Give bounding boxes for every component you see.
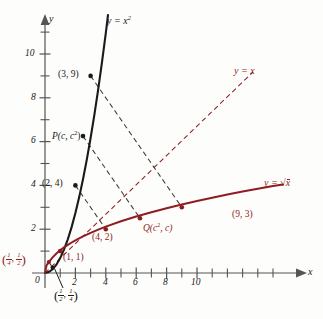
label-point-2-4: (2, 4)	[42, 179, 63, 189]
identity-line	[45, 72, 253, 273]
figure-canvas: y x 0 2 4 6 8 10 2 4 6 8 10 y = x2 y = x…	[0, 0, 323, 319]
label-point-quarter-half: (14, 12)	[2, 252, 26, 266]
parabola-label: y = x2	[107, 15, 131, 26]
close-paren: )	[22, 252, 26, 267]
parabola-label-text: y = x	[107, 15, 128, 26]
y-tick-6: 6	[31, 136, 36, 146]
dot-1-1	[58, 249, 63, 254]
segment-p-to-q	[83, 136, 140, 218]
y-tick-8: 8	[31, 93, 36, 103]
label-point-9-3: (9, 3)	[232, 210, 253, 220]
label-point-q-suffix: , c)	[160, 223, 172, 233]
dot-quarter-half	[47, 260, 51, 264]
dot-half-quarter	[51, 265, 55, 269]
identity-line-label: y = x	[234, 66, 255, 76]
label-point-q-text: Q(c	[143, 223, 157, 233]
label-point-3-9: (3, 9)	[58, 70, 79, 80]
parabola-label-exponent: 2	[128, 14, 131, 21]
origin-label: 0	[35, 276, 40, 286]
x-tick-4: 4	[103, 278, 108, 288]
x-tick-8: 8	[163, 278, 168, 288]
leader-half-quarter	[55, 269, 64, 289]
dot-4-2	[104, 227, 109, 232]
x-axis-arrow	[296, 269, 307, 278]
graph-svg	[0, 0, 323, 319]
dot-3-9	[88, 74, 93, 79]
y-tick-2: 2	[31, 224, 36, 234]
label-point-q: Q(c2, c)	[143, 222, 172, 234]
label-point-p: P(c, c2)	[52, 130, 80, 142]
axis-group	[32, 25, 296, 288]
x-tick-2: 2	[72, 278, 77, 288]
y-tick-10: 10	[25, 49, 35, 59]
dot-9-3	[180, 205, 185, 210]
segment-3-9-to-9-3	[91, 76, 182, 207]
label-point-4-2: (4, 2)	[92, 233, 113, 243]
dot-2-4	[73, 183, 78, 188]
label-point-1-1: (1, 1)	[63, 253, 84, 263]
y-axis-label: y	[49, 14, 53, 24]
sqrt-label-text: y =	[264, 177, 280, 188]
close-paren: )	[74, 288, 78, 303]
sqrt-label: y = √x	[264, 178, 290, 188]
dot-q	[138, 216, 143, 221]
y-tick-4: 4	[31, 180, 36, 190]
x-axis-label: x	[308, 267, 312, 277]
label-point-p-text: P(c, c	[52, 131, 74, 141]
x-tick-10: 10	[191, 278, 201, 288]
label-point-p-suffix: )	[77, 131, 80, 141]
sqrt-radical-icon: √x	[280, 178, 290, 188]
dot-p	[81, 134, 86, 139]
label-point-half-quarter: (12, 14)	[54, 288, 78, 302]
x-tick-6: 6	[133, 278, 138, 288]
